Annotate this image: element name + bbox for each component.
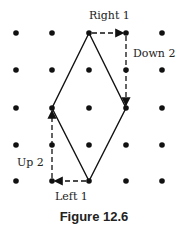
- figure-caption: Figure 12.6: [60, 209, 129, 224]
- label-left-1: Left 1: [55, 190, 88, 203]
- grid-dot: [159, 178, 165, 184]
- grid-dot: [123, 178, 129, 184]
- grid-dot: [86, 142, 92, 148]
- label-down-2: Down 2: [133, 47, 175, 60]
- grid-dot: [159, 142, 165, 148]
- figure-diagram: Right 1 Down 2 Left 1 Up 2 Figure 12.6: [0, 0, 187, 229]
- grid-dot: [86, 67, 92, 73]
- grid-dot: [13, 178, 19, 184]
- label-right-1: Right 1: [89, 9, 130, 22]
- grid-dot: [13, 105, 19, 111]
- grid-dot: [13, 67, 19, 73]
- grid-dot: [159, 67, 165, 73]
- grid-dot: [86, 105, 92, 111]
- grid-dot: [49, 178, 55, 184]
- grid-dot: [159, 105, 165, 111]
- grid-dot: [49, 67, 55, 73]
- label-up-2: Up 2: [17, 156, 44, 169]
- grid-dot: [13, 30, 19, 36]
- grid-dot: [123, 30, 129, 36]
- grid-dot: [123, 142, 129, 148]
- grid-dot: [49, 30, 55, 36]
- grid-dot: [13, 142, 19, 148]
- grid-dot: [159, 30, 165, 36]
